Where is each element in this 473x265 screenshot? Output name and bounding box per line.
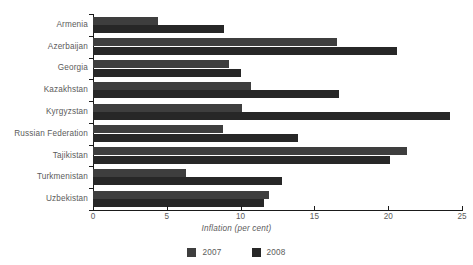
inflation-bar-chart: ArmeniaAzerbaijanGeorgiaKazakhstanKyrgyz… [0, 0, 473, 265]
bar-group [93, 14, 462, 36]
bar-kyrgyzstan-2007 [93, 104, 242, 112]
bar-tajikistan-2008 [93, 156, 390, 164]
bar-group [93, 188, 462, 210]
bar-tajikistan-2007 [93, 147, 407, 155]
x-tick-mark [93, 206, 94, 211]
chart-legend: 20072008 [0, 248, 473, 257]
y-axis-label-turkmenistan: Turkmenistan [2, 172, 88, 181]
x-tick-label-0: 0 [91, 212, 96, 221]
bar-armenia-2007 [93, 17, 158, 25]
y-axis-label-georgia: Georgia [2, 63, 88, 72]
plot-area [93, 14, 462, 210]
legend-item-2008: 2008 [252, 248, 286, 257]
legend-item-2007: 2007 [187, 248, 221, 257]
x-tick-label-15: 15 [310, 212, 319, 221]
bar-georgia-2008 [93, 69, 241, 77]
bar-russian-federation-2008 [93, 134, 298, 142]
bar-georgia-2007 [93, 60, 229, 68]
bar-azerbaijan-2007 [93, 38, 337, 46]
x-axis-line [93, 210, 463, 211]
y-axis-label-armenia: Armenia [2, 20, 88, 29]
y-axis-label-uzbekistan: Uzbekistan [2, 194, 88, 203]
bar-uzbekistan-2008 [93, 199, 264, 207]
bar-group [93, 101, 462, 123]
x-tick-mark [388, 206, 389, 211]
y-axis-label-azerbaijan: Azerbaijan [2, 42, 88, 51]
legend-swatch-2008 [252, 248, 261, 257]
y-axis-label-tajikistan: Tajikistan [2, 151, 88, 160]
x-tick-mark [462, 206, 463, 211]
x-tick-label-25: 25 [457, 212, 466, 221]
x-tick-label-20: 20 [384, 212, 393, 221]
x-tick-label-5: 5 [165, 212, 170, 221]
y-axis-label-kyrgyzstan: Kyrgyzstan [2, 107, 88, 116]
x-tick-mark [241, 206, 242, 211]
bar-uzbekistan-2007 [93, 191, 269, 199]
bar-group [93, 145, 462, 167]
y-axis-label-kazakhstan: Kazakhstan [2, 85, 88, 94]
bar-group [93, 79, 462, 101]
bar-kyrgyzstan-2008 [93, 112, 450, 120]
bar-azerbaijan-2008 [93, 47, 397, 55]
legend-label-2007: 2007 [202, 248, 221, 257]
x-tick-mark [167, 206, 168, 211]
y-axis-labels: ArmeniaAzerbaijanGeorgiaKazakhstanKyrgyz… [0, 14, 88, 210]
bar-armenia-2008 [93, 25, 224, 33]
y-axis-label-russian-federation: Russian Federation [2, 129, 88, 138]
legend-swatch-2007 [187, 248, 196, 257]
x-tick-mark [314, 206, 315, 211]
x-axis-title: Inflation (per cent) [0, 224, 473, 233]
bar-turkmenistan-2007 [93, 169, 186, 177]
bar-group [93, 166, 462, 188]
bar-group [93, 36, 462, 58]
bar-kazakhstan-2007 [93, 82, 251, 90]
x-tick-label-10: 10 [236, 212, 245, 221]
bar-group [93, 123, 462, 145]
bar-group [93, 58, 462, 80]
bar-kazakhstan-2008 [93, 90, 339, 98]
legend-label-2008: 2008 [267, 248, 286, 257]
bar-russian-federation-2007 [93, 125, 223, 133]
bar-turkmenistan-2008 [93, 177, 282, 185]
